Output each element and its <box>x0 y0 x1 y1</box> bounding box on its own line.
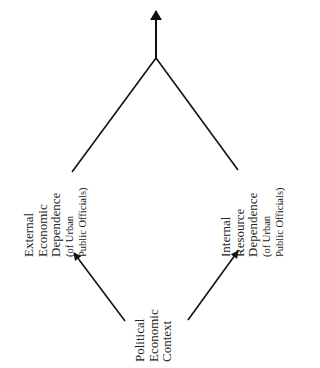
node-label-line: Public Officials) <box>76 187 90 257</box>
node-label-line: Dependence <box>49 187 63 257</box>
node-label-line: (of Urban <box>260 187 274 257</box>
arrow-context-to-internal <box>188 251 238 320</box>
merge-line-right <box>156 58 238 170</box>
arrow-context-to-external <box>74 253 125 321</box>
node-label-line: Political <box>133 309 147 362</box>
node-label-line: Economic <box>147 309 161 362</box>
node-political-economic-context: Political Economic Context <box>133 309 174 362</box>
node-label-line: (of Urban <box>63 187 77 257</box>
node-label-line: Context <box>160 309 174 362</box>
node-external-economic-dependence: External Economic Dependence (of Urban P… <box>22 187 90 257</box>
node-label-line: Dependence <box>246 187 260 257</box>
node-label-line: Public Officials) <box>273 187 287 257</box>
node-label-line: Internal <box>219 187 233 257</box>
node-internal-resource-dependence: Internal Resource Dependence (of Urban P… <box>219 187 287 257</box>
node-label-line: External <box>22 187 36 257</box>
node-label-line: Resource <box>233 187 247 257</box>
merge-line-left <box>72 58 156 172</box>
node-label-line: Economic <box>36 187 50 257</box>
